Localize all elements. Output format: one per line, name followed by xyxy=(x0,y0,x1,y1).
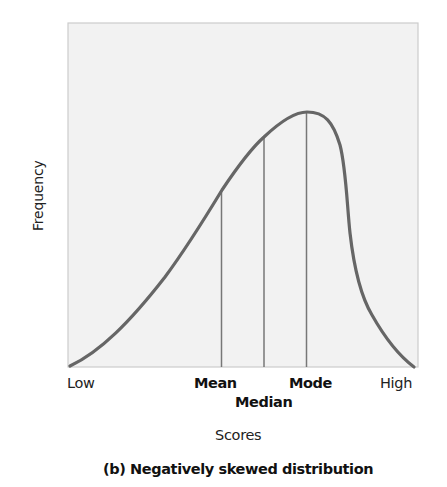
x-axis-label: Scores xyxy=(215,427,261,443)
median-label: Median xyxy=(235,394,292,410)
mean-label: Mean xyxy=(194,375,237,391)
x-tick-high: High xyxy=(380,375,412,391)
x-tick-low: Low xyxy=(67,375,95,391)
skewed-distribution-chart xyxy=(0,0,447,487)
y-axis-label: Frequency xyxy=(30,161,46,231)
plot-area xyxy=(68,23,418,367)
chart-caption: (b) Negatively skewed distribution xyxy=(103,461,373,477)
mode-label: Mode xyxy=(289,375,332,391)
